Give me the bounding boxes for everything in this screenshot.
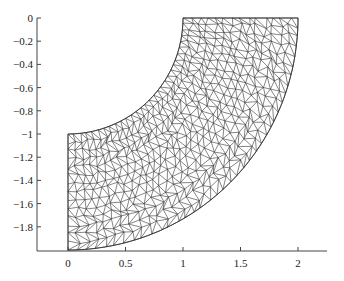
y-tick-label: −1.6 <box>13 198 33 210</box>
triangular-mesh <box>68 18 298 250</box>
x-tick-label: 2 <box>295 257 301 269</box>
y-tick-label: −0.2 <box>13 35 33 47</box>
y-tick-label: −0.4 <box>13 58 33 70</box>
y-tick-label: −1.8 <box>13 221 33 233</box>
y-tick-label: 0 <box>28 12 34 24</box>
x-tick-label: 0.5 <box>119 257 133 269</box>
y-tick-label: −0.8 <box>13 105 33 117</box>
axes: 00.511.520−0.2−0.4−0.6−0.8−1−1.2−1.4−1.6… <box>13 12 327 269</box>
mesh-edges <box>68 18 298 250</box>
y-tick-label: −1 <box>21 128 33 140</box>
y-tick-label: −1.4 <box>13 174 33 186</box>
x-tick-label: 1 <box>180 257 186 269</box>
mesh-plot: 00.511.520−0.2−0.4−0.6−0.8−1−1.2−1.4−1.6… <box>0 0 344 281</box>
x-tick-label: 1.5 <box>234 257 248 269</box>
y-tick-label: −1.2 <box>13 151 33 163</box>
x-tick-label: 0 <box>65 257 71 269</box>
y-tick-label: −0.6 <box>13 82 33 94</box>
